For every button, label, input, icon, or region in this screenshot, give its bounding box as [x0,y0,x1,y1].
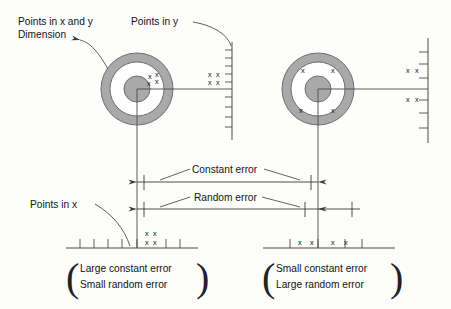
right-target-mark-1: x [301,66,305,75]
dimension-lines: Constant error Random error [137,164,360,217]
label-points-in-xy-line1: Points in x and y [18,16,94,27]
leader-line-points-in-xy [80,40,108,69]
left-caption: ( Large constant error Small random erro… [66,255,209,300]
right-y-mark-2: x [415,66,419,75]
right-x-scale: x x x x [263,238,395,248]
right-x-mark-2: x [310,238,314,247]
leader-line-points-in-x [95,204,130,246]
right-caption: ( Small constant error Large random erro… [262,255,403,300]
left-x-scale: x x x x [66,229,198,248]
constant-error-label-leader-left [160,169,190,180]
left-x-mark-3: x [145,238,149,247]
right-caption-line1: Small constant error [276,263,368,274]
right-y-mark-1: x [406,66,410,75]
random-error-label-leader-left [160,197,190,207]
points-in-x-annotation: Points in x [30,199,130,246]
right-y-scale: x x x x [406,38,428,143]
left-y-mark-4: x [216,78,220,87]
left-x-axis-ticks [80,239,180,248]
right-target-mark-2: x [331,66,335,75]
constant-error-label-leader-right [264,169,300,180]
right-x-mark-4: x [344,238,348,247]
leader-line-points-in-y [193,22,231,46]
label-points-in-xy-line2: Dimension [18,29,66,40]
left-target-mark-3: x [147,79,151,88]
right-x-mark-1: x [298,238,302,247]
label-points-in-y: Points in y [131,16,179,27]
left-y-mark-3: x [208,78,212,87]
right-target-mark-3: x [299,106,303,115]
label-points-in-x: Points in x [30,199,77,210]
left-x-mark-2: x [153,229,157,238]
left-caption-line2: Small random error [80,279,168,290]
right-y-mark-4: x [415,95,419,104]
left-caption-open-paren: ( [66,255,79,300]
right-caption-close-paren: ) [390,255,403,300]
right-target-group: x x x x [282,53,428,248]
right-y-mark-3: x [406,95,410,104]
right-x-mark-3: x [331,238,335,247]
random-error-label-leader-right [262,197,300,207]
left-target-mark-4: x [155,77,159,86]
right-y-axis-ticks [419,52,428,128]
left-target-group: x x x x [101,53,232,248]
accuracy-precision-diagram: x x x x x x x x [0,0,451,309]
right-target-mark-4: x [331,106,335,115]
label-constant-error: Constant error [192,164,258,175]
figure-canvas: x x x x x x x x [0,0,451,309]
left-x-mark-1: x [145,229,149,238]
right-caption-open-paren: ( [262,255,275,300]
left-x-mark-4: x [153,238,157,247]
left-caption-line1: Large constant error [80,263,172,274]
left-y-scale: x x x x [208,42,232,140]
right-caption-line2: Large random error [276,279,364,290]
left-y-axis-ticks [225,50,232,127]
label-random-error: Random error [194,192,257,203]
left-caption-close-paren: ) [196,255,209,300]
